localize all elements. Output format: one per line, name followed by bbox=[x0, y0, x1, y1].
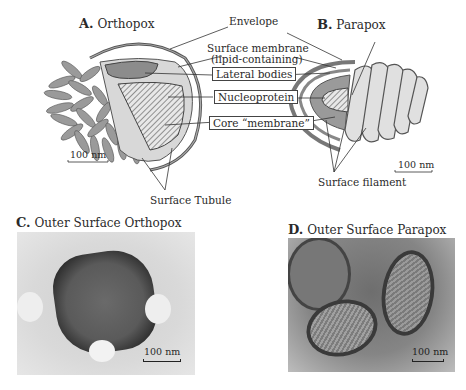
parapox-virion bbox=[381, 251, 435, 334]
label-lateral-bodies: Lateral bodies bbox=[212, 67, 296, 81]
bright-spot bbox=[89, 340, 115, 362]
panel-d-title: D. Outer Surface Parapox bbox=[288, 222, 446, 237]
scale-bar-b: 100 nm bbox=[398, 159, 434, 170]
scale-bar-c-line bbox=[143, 359, 181, 362]
parapox-virion bbox=[290, 240, 348, 308]
scale-bar-d: 100 nm bbox=[412, 346, 448, 357]
scale-bar-lines bbox=[68, 160, 432, 172]
bright-spot bbox=[145, 294, 171, 324]
scale-bar-a: 100 nm bbox=[70, 149, 106, 160]
bright-spot bbox=[17, 292, 43, 322]
scale-bar-d-line bbox=[412, 359, 444, 362]
label-envelope: Envelope bbox=[229, 15, 278, 27]
label-surface-tubule: Surface Tubule bbox=[150, 194, 231, 206]
orthopox-diagram bbox=[44, 27, 228, 190]
micrograph-parapox: 100 nm bbox=[288, 238, 455, 372]
micrograph-orthopox: 100 nm bbox=[17, 232, 195, 375]
scale-bar-c: 100 nm bbox=[144, 346, 180, 357]
label-surface-filament: Surface filament bbox=[318, 176, 406, 188]
label-surface-membrane-sub: (lipid-containing) bbox=[211, 53, 303, 65]
label-nucleoprotein: Nucleoprotein bbox=[214, 90, 298, 104]
label-core-membrane: Core “membrane” bbox=[209, 116, 314, 130]
